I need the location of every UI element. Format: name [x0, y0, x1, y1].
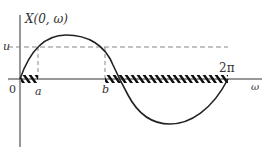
- a-label: a: [35, 86, 42, 97]
- y-axis-label: X(0, ω): [25, 13, 68, 25]
- origin-label: 0: [9, 84, 16, 95]
- omega-label: ω: [251, 82, 259, 92]
- u-label: u: [3, 41, 10, 52]
- hatch-interval-b-2pi: [105, 75, 228, 83]
- hatch-interval-0-a: [21, 75, 38, 83]
- b-label: b: [102, 84, 109, 95]
- two-pi-label: 2π: [219, 62, 235, 74]
